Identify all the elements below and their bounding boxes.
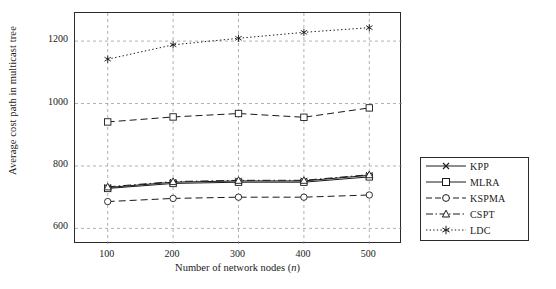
x-axis-title-tail: ) [296, 262, 300, 273]
chart-root: 600 800 1000 1200 100 200 300 400 500 Av… [0, 0, 556, 289]
x-axis-title: Number of network nodes (n) [74, 262, 401, 273]
y-axis-title: Average cost path in multicast tree [7, 0, 18, 221]
legend-label-mlra: MLRA [470, 177, 500, 188]
plot-svg [75, 13, 402, 244]
legend-item-cspt: CSPT [421, 206, 528, 222]
legend-label-kspma: KSPMA [470, 193, 505, 204]
legend-sample-kspma [425, 191, 467, 205]
legend-sample-ldc [425, 223, 467, 237]
legend-item-ldc: LDC [421, 222, 528, 238]
legend-sample-mlra [425, 175, 467, 189]
x-tick-label: 200 [152, 248, 192, 259]
legend-item-kpp: KPP [421, 158, 528, 174]
y-tick-label: 800 [34, 158, 68, 169]
plot-area [74, 12, 401, 243]
gridlines [75, 13, 402, 244]
x-axis-title-text: Number of network nodes ( [175, 262, 291, 273]
x-tick-label: 100 [87, 248, 127, 259]
x-tick-label: 300 [218, 248, 258, 259]
legend-item-kspma: KSPMA [421, 190, 528, 206]
legend-sample-kpp [425, 159, 467, 173]
y-tick-label: 1000 [34, 96, 68, 107]
y-tick-label: 600 [34, 220, 68, 231]
legend: KPP MLRA KSPMA CSPT [420, 157, 529, 241]
legend-label-kpp: KPP [470, 161, 489, 172]
x-tick-label: 500 [348, 248, 388, 259]
legend-label-ldc: LDC [470, 225, 491, 236]
legend-sample-cspt [425, 207, 467, 221]
legend-item-mlra: MLRA [421, 174, 528, 190]
x-tick-label: 400 [283, 248, 323, 259]
y-tick-label: 1200 [34, 33, 68, 44]
legend-label-cspt: CSPT [470, 209, 495, 220]
